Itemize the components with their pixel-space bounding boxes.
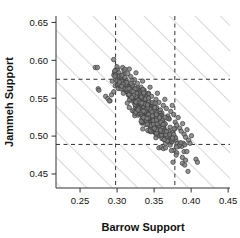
x-tick-label: 0.25 (71, 195, 90, 206)
y-tick-label: 0.60 (30, 55, 49, 66)
x-tick-label: 0.45 (219, 195, 238, 206)
y-tick-label: 0.55 (30, 93, 49, 104)
y-tick-label: 0.45 (30, 168, 49, 179)
x-tick-label: 0.40 (182, 195, 201, 206)
y-axis-label: Jammeh Support (3, 57, 15, 147)
x-tick-label: 0.35 (145, 195, 164, 206)
x-axis-label: Barrow Support (101, 221, 184, 233)
y-tick-label: 0.65 (30, 17, 49, 28)
scatter-plot-figure: 0.250.300.350.400.450.450.500.550.600.65… (0, 0, 240, 238)
y-tick-label: 0.50 (30, 130, 49, 141)
x-tick-label: 0.30 (108, 195, 127, 206)
chart-canvas: 0.250.300.350.400.450.450.500.550.600.65… (0, 0, 240, 238)
